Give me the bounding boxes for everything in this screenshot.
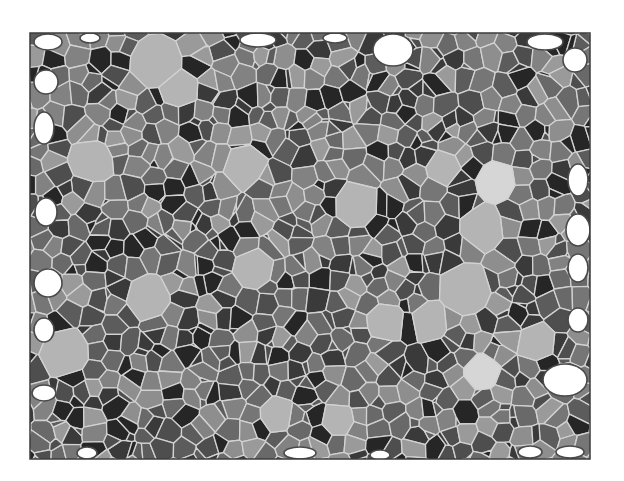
void-region <box>543 364 587 396</box>
grain <box>512 150 533 169</box>
void-region <box>568 254 588 282</box>
void-region <box>240 33 276 47</box>
void-region <box>34 70 58 94</box>
grain <box>227 125 252 145</box>
void-region <box>77 447 97 459</box>
void-region <box>80 33 100 43</box>
void-region <box>32 385 56 401</box>
void-region <box>284 447 316 459</box>
grain-map-canvas <box>0 0 624 481</box>
grain-cells <box>28 31 592 461</box>
void-region <box>568 308 588 332</box>
void-region <box>563 48 587 72</box>
void-region <box>373 34 413 66</box>
void-region <box>34 112 54 144</box>
grain <box>216 308 231 331</box>
void-region <box>323 33 347 43</box>
grain <box>68 141 114 182</box>
grain <box>336 181 377 227</box>
void-region <box>35 198 57 226</box>
void-region <box>556 446 584 458</box>
void-region <box>34 269 62 297</box>
grain <box>163 178 185 196</box>
grain <box>367 304 404 341</box>
grain-microstructure-figure <box>0 0 624 481</box>
void-region <box>34 34 62 50</box>
grain <box>285 130 289 139</box>
void-region <box>518 446 542 458</box>
grain <box>367 425 368 426</box>
grain <box>532 424 540 445</box>
void-region <box>568 164 588 196</box>
void-region <box>527 34 563 50</box>
void-region <box>34 318 54 342</box>
void-region <box>566 214 590 246</box>
